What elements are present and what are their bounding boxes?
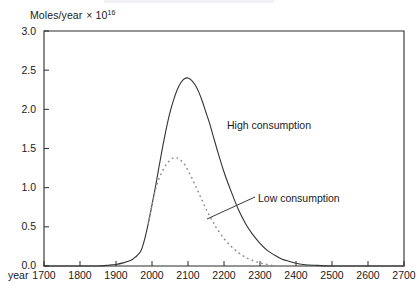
plot-canvas — [0, 0, 420, 297]
axis-frame — [44, 31, 404, 266]
series-line-high-consumption — [44, 78, 404, 266]
chart-container: Moles/year× 1016 3.0 2.5 2.0 1.5 1.0 0.5… — [0, 0, 420, 297]
x-tick-marks — [44, 261, 404, 266]
low-consumption-leader-line — [207, 197, 255, 219]
series-line-low-consumption — [148, 158, 274, 266]
y-tick-marks — [44, 31, 49, 266]
